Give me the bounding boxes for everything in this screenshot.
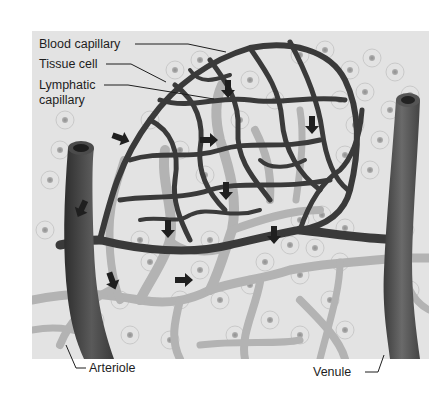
label-lymphatic-line2: capillary <box>39 93 85 107</box>
label-blood-capillary: Blood capillary <box>39 37 120 51</box>
label-arteriole: Arteriole <box>89 361 136 375</box>
label-tissue-cell: Tissue cell <box>39 57 98 71</box>
label-lymphatic-line1: Lymphatic <box>39 78 96 92</box>
label-venule: Venule <box>313 365 351 379</box>
